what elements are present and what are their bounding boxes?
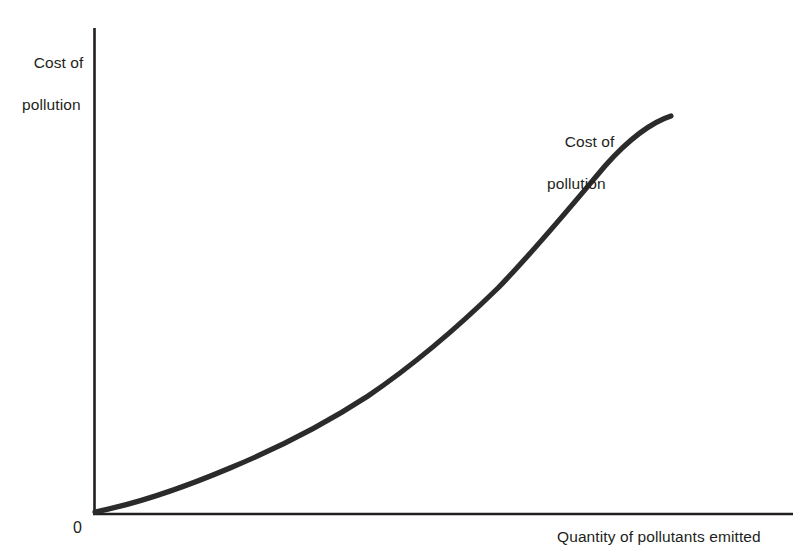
chart-figure: Cost of pollution Cost of pollution 0 Qu… <box>0 0 811 554</box>
y-axis-label-line2: pollution <box>16 94 83 115</box>
y-axis-label-line1: Cost of <box>34 54 84 71</box>
y-axis-label: Cost of pollution <box>16 31 83 157</box>
curve-annotation-label: Cost of pollution <box>547 110 614 236</box>
curve-annotation-line1: Cost of <box>565 133 615 150</box>
curve-annotation-line2: pollution <box>547 173 614 194</box>
x-axis-label: Quantity of pollutants emitted <box>557 526 761 547</box>
origin-tick-label: 0 <box>73 517 82 538</box>
chart-plot-area <box>0 0 811 554</box>
